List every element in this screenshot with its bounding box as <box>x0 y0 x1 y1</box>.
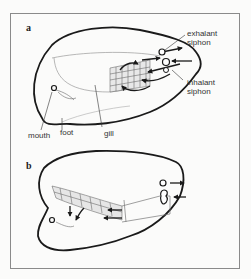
panel-b-body <box>38 151 186 250</box>
label-exhalant-siphon: exhalant siphon <box>187 29 237 47</box>
panel-label-b: b <box>26 160 32 171</box>
panel-label-a: a <box>26 22 31 33</box>
label-mouth: mouth <box>28 131 50 140</box>
inhalant-siphon-b <box>161 190 168 204</box>
panel-a-body <box>34 27 201 130</box>
gill-grid-b <box>52 186 122 220</box>
label-inhalant-siphon: inhalant siphon <box>187 78 237 96</box>
mouth-b <box>50 218 55 223</box>
exhalant-siphon-a <box>159 49 165 55</box>
label-gill: gill <box>104 129 114 138</box>
mouth-a <box>52 86 57 91</box>
exhalant-siphon-b <box>160 180 166 186</box>
inhalant-siphon-a <box>163 59 170 66</box>
gill-grid-a <box>110 60 150 92</box>
label-foot: foot <box>60 128 73 137</box>
